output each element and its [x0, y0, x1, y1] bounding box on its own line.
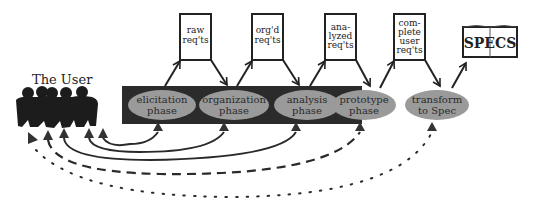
- svg-text:org'd: org'd: [256, 25, 280, 35]
- user-group: The User: [16, 72, 108, 144]
- svg-text:req'ts: req'ts: [254, 35, 280, 45]
- phase-prototype: prototype phase: [332, 90, 396, 120]
- feedback-links: [36, 132, 432, 197]
- svg-text:organization: organization: [202, 94, 266, 105]
- specs-output: SPECS: [463, 26, 517, 58]
- phase-elicitation: elicitation phase: [128, 90, 196, 120]
- svg-text:phase: phase: [147, 105, 177, 116]
- phase-transform: transform to Spec: [405, 90, 469, 120]
- svg-text:req'ts: req'ts: [396, 45, 422, 55]
- svg-text:phase: phase: [292, 105, 322, 116]
- svg-text:to Spec: to Spec: [418, 105, 456, 116]
- svg-text:elicitation: elicitation: [137, 94, 188, 105]
- phase-organization: organization phase: [199, 90, 269, 120]
- feedback-elicitation: [103, 132, 158, 145]
- artifact-complete-user-reqts: com- plete user req'ts: [394, 14, 425, 60]
- people-silhouette-icon: [16, 86, 98, 128]
- svg-text:phase: phase: [349, 105, 379, 116]
- artifact-orgd-reqts: org'd req'ts: [252, 14, 283, 60]
- feedback-analysis: [64, 132, 296, 160]
- svg-text:req'ts: req'ts: [182, 35, 208, 45]
- artifact-raw-reqts: raw req'ts: [180, 14, 211, 60]
- svg-text:req'ts: req'ts: [327, 40, 353, 50]
- svg-text:phase: phase: [219, 105, 249, 116]
- specs-label: SPECS: [464, 35, 517, 51]
- requirements-process-diagram: The User elicitation phase organization …: [0, 0, 534, 203]
- flow-arrows: [165, 60, 466, 88]
- artifact-analyzed-reqts: ana- lyzed req'ts: [325, 14, 356, 60]
- feedback-transform: [36, 132, 432, 197]
- user-arrowheads: [28, 128, 108, 144]
- user-label: The User: [32, 72, 93, 87]
- svg-text:prototype: prototype: [339, 94, 388, 105]
- feedback-prototype: [48, 132, 360, 174]
- svg-text:analysis: analysis: [287, 94, 328, 105]
- svg-text:transform: transform: [412, 94, 463, 105]
- phase-analysis: analysis phase: [274, 90, 340, 120]
- svg-text:raw: raw: [187, 25, 205, 35]
